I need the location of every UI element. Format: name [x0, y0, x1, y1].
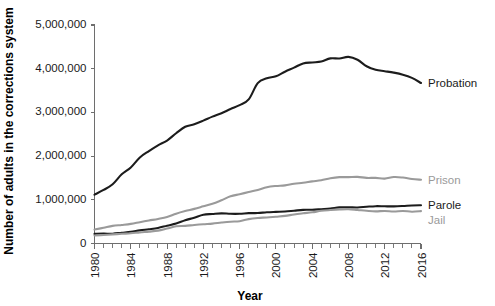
- y-axis-title: Number of adults in the corrections syst…: [2, 7, 16, 254]
- x-tick-label: 1984: [125, 252, 137, 278]
- x-tick-label: 1988: [162, 253, 174, 279]
- x-tick-label: 2012: [379, 253, 391, 279]
- series-line-parole: [95, 205, 422, 234]
- y-tick-label: 1,000,000: [35, 193, 86, 205]
- legend-label-parole: Parole: [428, 199, 461, 211]
- y-axis-title-group: Number of adults in the corrections syst…: [2, 7, 16, 254]
- x-axis-ticks: 1980198419881992199620002004200820122016: [89, 244, 428, 279]
- legend-layer: ProbationPrisonParoleJail: [428, 77, 477, 226]
- y-tick-label: 0: [80, 237, 86, 249]
- y-tick-label: 5,000,000: [35, 18, 86, 30]
- series-line-prison: [95, 177, 422, 230]
- x-tick-label: 2008: [343, 253, 355, 279]
- x-tick-label: 2000: [270, 253, 282, 279]
- legend-label-prison: Prison: [428, 174, 461, 186]
- y-tick-label: 2,000,000: [35, 149, 86, 161]
- x-tick-label: 1992: [198, 253, 210, 279]
- x-axis-title: Year: [237, 289, 263, 303]
- x-tick-label: 1980: [89, 253, 101, 279]
- x-axis-title-group: Year: [237, 289, 263, 303]
- y-axis-ticks: 01,000,0002,000,0003,000,0004,000,0005,0…: [35, 18, 94, 249]
- x-tick-label: 2004: [307, 252, 319, 278]
- chart-container: Number of adults in the corrections syst…: [0, 0, 495, 306]
- x-tick-label: 2016: [416, 253, 428, 279]
- legend-label-jail: Jail: [428, 214, 445, 226]
- series-line-probation: [95, 57, 422, 195]
- y-tick-label: 4,000,000: [35, 62, 86, 74]
- y-tick-label: 3,000,000: [35, 105, 86, 117]
- series-layer: [95, 57, 422, 236]
- x-tick-label: 1996: [234, 253, 246, 279]
- legend-label-probation: Probation: [428, 77, 477, 89]
- line-chart: Number of adults in the corrections syst…: [0, 0, 495, 306]
